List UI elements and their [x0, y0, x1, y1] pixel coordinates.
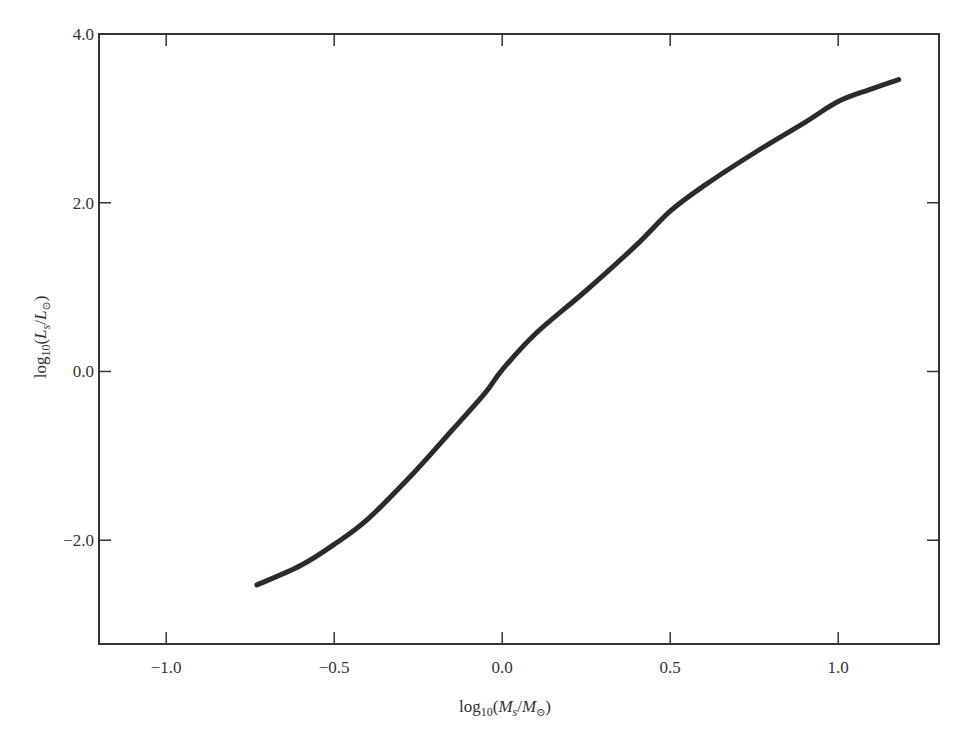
y-tick-label: 2.0: [73, 194, 94, 213]
y-tick-label: −2.0: [63, 531, 94, 550]
x-tick-label: 0.0: [492, 658, 513, 677]
plot-frame: [99, 34, 939, 644]
data-series: [257, 80, 899, 585]
x-tick-label: −0.5: [319, 658, 350, 677]
chart: −1.0−0.50.00.51.0 −2.00.02.04.0 log10(Ms…: [0, 0, 960, 737]
y-tick-label: 0.0: [73, 362, 94, 381]
x-axis-ticks: −1.0−0.50.00.51.0: [151, 34, 849, 677]
plot-border: [99, 34, 939, 644]
y-axis-title: log10(Ls/L⊙): [31, 296, 53, 379]
x-tick-label: 0.5: [660, 658, 681, 677]
x-axis-title: log10(Ms/M⊙): [459, 697, 551, 719]
y-tick-label: 4.0: [73, 25, 94, 44]
mass-luminosity-curve: [257, 80, 899, 585]
x-tick-label: 1.0: [828, 658, 849, 677]
y-axis-ticks: −2.00.02.04.0: [63, 25, 939, 550]
x-tick-label: −1.0: [151, 658, 182, 677]
